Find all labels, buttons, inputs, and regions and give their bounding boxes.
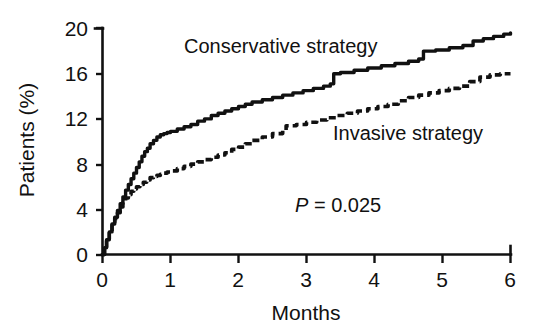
figure-container: 0 4 8 12 16 20 0 1 2 3 4 5 6 Months Pati…	[0, 0, 539, 335]
x-tick-label-2: 2	[232, 268, 244, 291]
x-tick-label-0: 0	[96, 268, 108, 291]
p-value-number: = 0.025	[308, 194, 381, 216]
y-tick-label-12: 12	[65, 107, 88, 130]
x-axis-ticks	[103, 255, 511, 263]
y-tick-label-20: 20	[65, 17, 88, 40]
x-axis-title: Months	[272, 301, 341, 324]
kaplan-meier-chart: 0 4 8 12 16 20 0 1 2 3 4 5 6 Months Pati…	[0, 0, 539, 335]
y-tick-label-4: 4	[76, 198, 88, 221]
y-tick-label-8: 8	[76, 153, 88, 176]
y-tick-label-0: 0	[76, 243, 88, 266]
y-axis-tick-labels: 0 4 8 12 16 20	[65, 17, 89, 266]
conservative-strategy-label: Conservative strategy	[184, 35, 377, 57]
invasive-strategy-label: Invasive strategy	[333, 122, 483, 144]
y-tick-label-16: 16	[65, 62, 88, 85]
x-tick-label-3: 3	[300, 268, 312, 291]
x-tick-label-6: 6	[504, 268, 516, 291]
x-tick-label-5: 5	[436, 268, 448, 291]
x-tick-label-4: 4	[368, 268, 380, 291]
curve-invasive-strategy	[103, 74, 511, 255]
p-value-symbol: P	[295, 194, 309, 216]
p-value-annotation: P = 0.025	[295, 194, 381, 216]
y-axis-title: Patients (%)	[15, 83, 38, 197]
x-axis-tick-labels: 0 1 2 3 4 5 6	[96, 268, 516, 291]
x-tick-label-1: 1	[164, 268, 176, 291]
